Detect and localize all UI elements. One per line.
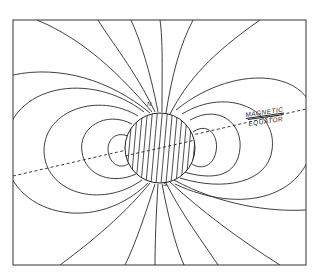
north-pole-label: N xyxy=(147,101,152,107)
south-pole-label: S xyxy=(163,181,168,187)
dipole-field-diagram: MAGNETIC EQUATOR N S xyxy=(0,0,321,280)
field-lines-svg xyxy=(0,0,321,280)
earth-sphere xyxy=(120,105,203,195)
